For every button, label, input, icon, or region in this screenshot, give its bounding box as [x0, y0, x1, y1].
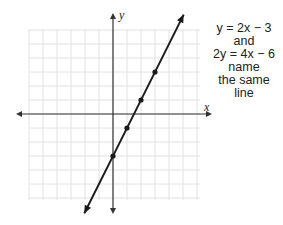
x-axis-label: x: [204, 100, 209, 115]
caption-line: line: [205, 87, 283, 100]
y-axis-up-arrow-icon: [110, 13, 116, 19]
y-axis-label: y: [119, 8, 124, 23]
data-point: [138, 97, 143, 102]
grid-lines: [29, 30, 200, 201]
data-point: [110, 153, 115, 158]
data-point: [124, 125, 129, 130]
data-point: [152, 69, 157, 74]
x-axis-left-arrow-icon: [16, 111, 22, 117]
equation-caption: y = 2x − 3 and 2y = 4x − 6 name the same…: [205, 22, 283, 100]
y-axis-down-arrow-icon: [110, 208, 116, 214]
